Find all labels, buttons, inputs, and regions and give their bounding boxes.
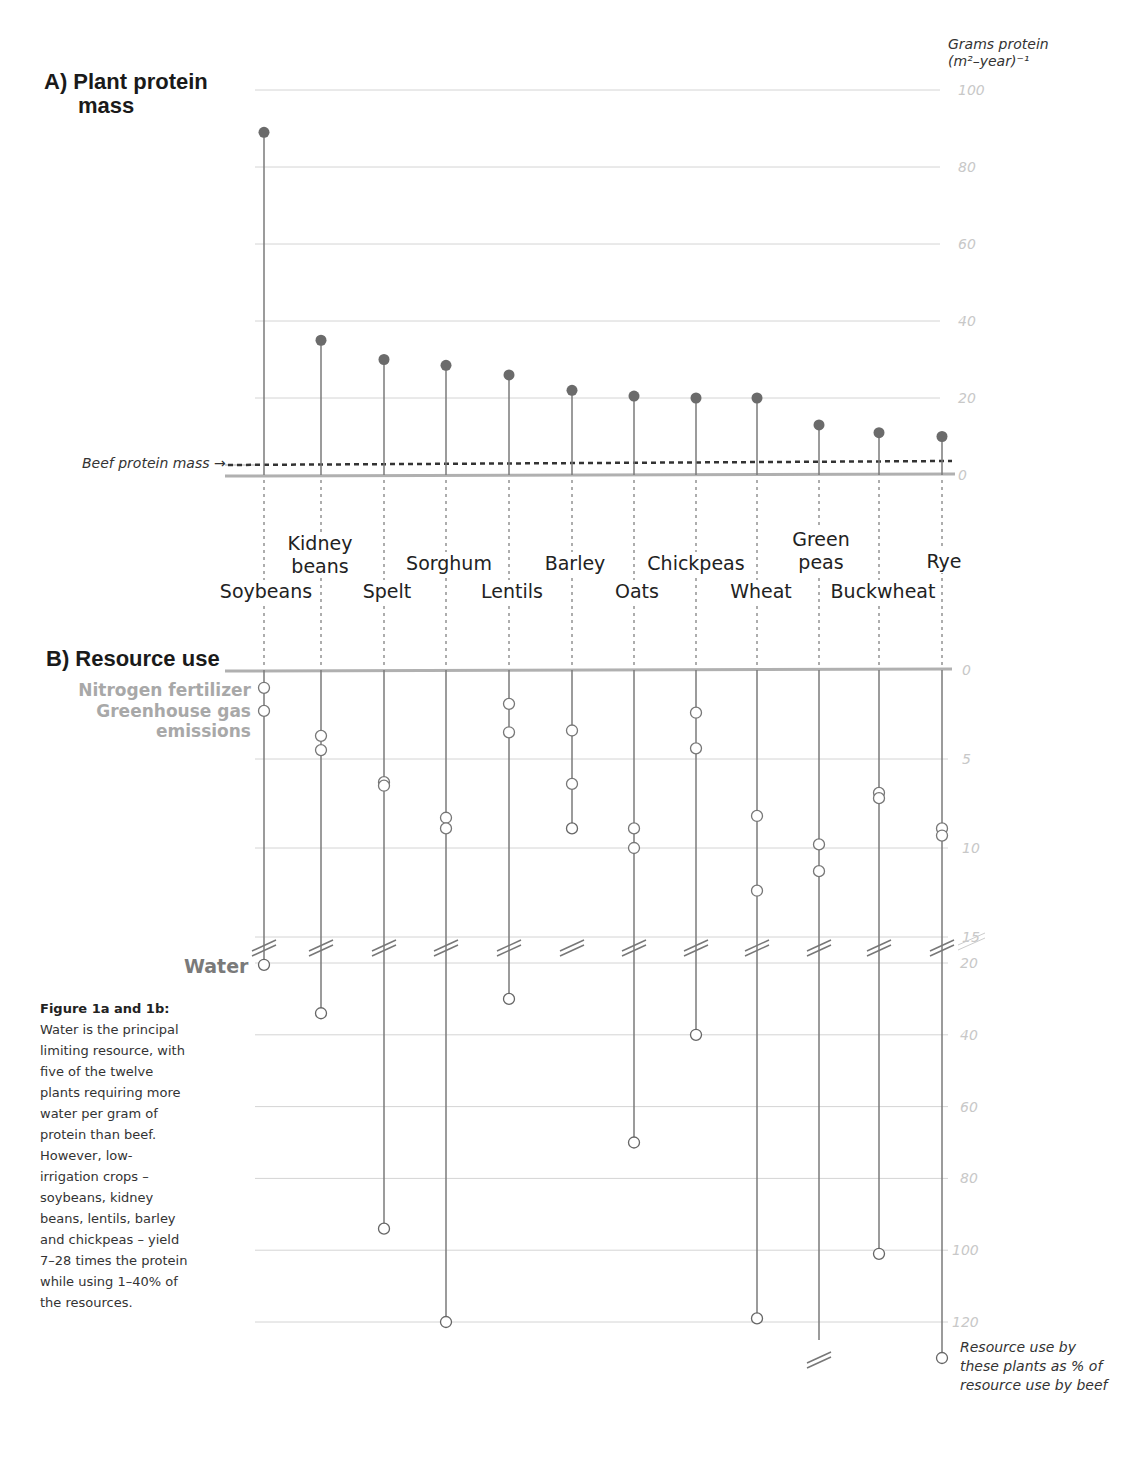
panel-b-title: B) Resource use — [46, 647, 220, 671]
legend-water: Water — [184, 955, 248, 977]
crop-label-spelt: Spelt — [361, 580, 414, 603]
crop-label-line: beans — [288, 555, 353, 578]
protein-dot — [379, 354, 390, 365]
baseline-a — [225, 474, 955, 476]
nitrogen-dot — [316, 730, 327, 741]
y-tick-label-a: 20 — [958, 390, 976, 406]
y-tick-label-b: 80 — [960, 1170, 978, 1186]
caption-heading: Figure 1a and 1b: — [40, 998, 190, 1019]
water-dot — [629, 1137, 640, 1148]
nitrogen-dot — [752, 810, 763, 821]
nitrogen-dot — [814, 839, 825, 850]
legend-ghg-line2: emissions — [96, 721, 251, 741]
protein-dot — [814, 419, 825, 430]
y-tick-label-b: 120 — [952, 1314, 979, 1330]
y-tick-label-a: 60 — [958, 236, 976, 252]
crop-label-soybeans: Soybeans — [218, 580, 314, 603]
water-dot — [379, 1223, 390, 1234]
water-dot — [567, 823, 578, 834]
ghg-dot — [752, 885, 763, 896]
crop-label-barley: Barley — [543, 552, 608, 575]
protein-dot — [441, 360, 452, 371]
ghg-dot — [504, 727, 515, 738]
crop-label-line: Barley — [545, 552, 606, 575]
water-dot — [504, 993, 515, 1004]
axis-title-line2: (m²–year)⁻¹ — [948, 53, 1049, 70]
ghg-dot — [259, 705, 270, 716]
y-tick-label-a: 0 — [958, 467, 967, 483]
crop-label-lentils: Lentils — [479, 580, 545, 603]
y-tick-label-b: 20 — [960, 955, 978, 971]
caption-body: Water is the principal limiting resource… — [40, 1022, 187, 1310]
nitrogen-dot — [259, 682, 270, 693]
nitrogen-dot — [441, 812, 452, 823]
ghg-dot — [567, 778, 578, 789]
beef-protein-label: Beef protein mass → — [82, 455, 226, 471]
ghg-dot — [316, 745, 327, 756]
protein-dot — [874, 427, 885, 438]
crop-label-line: peas — [792, 551, 850, 574]
water-dot — [259, 959, 270, 970]
crop-label-line: Spelt — [363, 580, 412, 603]
crop-label-line: Green — [792, 528, 850, 551]
figure-caption: Figure 1a and 1b: Water is the principal… — [40, 998, 190, 1313]
protein-dot — [316, 335, 327, 346]
crop-label-line: Lentils — [481, 580, 543, 603]
ghg-dot — [874, 793, 885, 804]
water-dot — [316, 1008, 327, 1019]
y-tick-label-b: 5 — [962, 751, 971, 767]
axis-title-line1: Grams protein — [948, 36, 1049, 53]
protein-dot — [691, 393, 702, 404]
crop-label-line: Sorghum — [406, 552, 492, 575]
nitrogen-dot — [629, 823, 640, 834]
y-tick-label-b: 40 — [960, 1027, 978, 1043]
panel-a-title-line2: mass — [44, 94, 208, 118]
water-dot — [691, 1029, 702, 1040]
ghg-dot — [629, 843, 640, 854]
axis-break-mark — [560, 940, 584, 951]
y-tick-label-a: 40 — [958, 313, 976, 329]
y-tick-label-b: 10 — [962, 840, 980, 856]
crop-label-line: Buckwheat — [831, 580, 936, 603]
y-tick-label-a: 100 — [958, 82, 985, 98]
water-dot — [937, 1353, 948, 1364]
nitrogen-dot — [504, 698, 515, 709]
protein-dot — [629, 391, 640, 402]
ghg-dot — [814, 866, 825, 877]
crop-label-line: Rye — [926, 550, 961, 573]
protein-dot — [504, 369, 515, 380]
crop-label-wheat: Wheat — [728, 580, 794, 603]
beef-reference-line — [228, 461, 952, 465]
axis-break-mark — [807, 1352, 831, 1363]
crop-label-oats: Oats — [613, 580, 661, 603]
protein-dot — [937, 431, 948, 442]
protein-dot — [752, 393, 763, 404]
baseline-b — [225, 669, 952, 671]
crop-label-line: Soybeans — [220, 580, 312, 603]
water-dot — [874, 1248, 885, 1259]
y-tick-label-b: 100 — [952, 1242, 979, 1258]
resource-use-note: Resource use by these plants as % of res… — [960, 1338, 1110, 1395]
protein-dot — [259, 127, 270, 138]
crop-label-line: Wheat — [730, 580, 792, 603]
water-dot — [441, 1317, 452, 1328]
water-dot — [752, 1313, 763, 1324]
legend-ghg-line1: Greenhouse gas — [96, 701, 251, 721]
panel-a-axis-title: Grams protein (m²–year)⁻¹ — [948, 36, 1049, 70]
ghg-dot — [937, 830, 948, 841]
crop-label-line: Chickpeas — [647, 552, 744, 575]
crop-label-sorghum: Sorghum — [404, 552, 494, 575]
protein-dot — [567, 385, 578, 396]
crop-label-kidney-beans: Kidneybeans — [286, 532, 355, 578]
axis-break-mark — [560, 945, 584, 956]
crop-label-line: Kidney — [288, 532, 353, 555]
ghg-dot — [691, 743, 702, 754]
y-tick-label-b: 0 — [962, 662, 971, 678]
crop-label-green-peas: Greenpeas — [790, 528, 852, 574]
legend-nitrogen: Nitrogen fertilizer — [78, 680, 251, 700]
panel-a-title: A) Plant protein mass — [44, 70, 208, 118]
legend-ghg: Greenhouse gas emissions — [96, 701, 251, 741]
y-tick-label-a: 80 — [958, 159, 976, 175]
crop-label-rye: Rye — [924, 550, 963, 573]
y-tick-label-b: 60 — [960, 1099, 978, 1115]
